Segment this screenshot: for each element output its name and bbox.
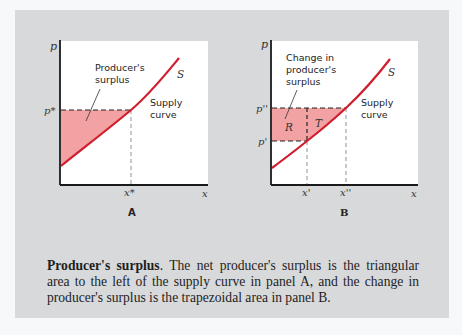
panel-b-quantity-tick-low: x' xyxy=(302,187,310,198)
panel-a-curve-label: S xyxy=(177,68,184,80)
panel-b-surplus-label-line3: surplus xyxy=(286,76,321,87)
panel-b-label: B xyxy=(340,207,348,218)
panel-a-surplus-label-line1: Producer's xyxy=(95,62,145,73)
caption-title: Producer's surplus xyxy=(47,258,160,273)
panel-b-y-axis-label: p xyxy=(261,38,268,51)
panel-a-quantity-tick: x* xyxy=(124,187,135,198)
panel-b-supply-label-line2: curve xyxy=(361,109,388,120)
panel-b-quantity-tick-high: x'' xyxy=(340,187,351,198)
panel-b-surplus-label-line1: Change in xyxy=(286,52,334,63)
panel-a-x-axis-label: x xyxy=(202,188,208,199)
panel-b-x-axis-label: x xyxy=(411,188,417,199)
panel-b-curve-label: S xyxy=(388,66,395,78)
panel-b-region-r-label: R xyxy=(284,121,293,133)
panel-b-price-tick-high: p'' xyxy=(256,103,268,114)
figure-caption: Producer's surplus. The net producer's s… xyxy=(47,258,419,306)
panel-a-supply-label-line2: curve xyxy=(150,109,177,120)
panel-a-surplus-label-line2: surplus xyxy=(95,74,130,85)
panel-a: p x p* x* S Supply curve Producer's surp… xyxy=(44,40,208,218)
panel-b-region-t-label: T xyxy=(315,117,323,129)
panel-a-supply-label-line1: Supply xyxy=(150,97,183,108)
panel-a-y-axis-label: p xyxy=(50,40,57,53)
panel-b-surplus-label-line2: producer's xyxy=(286,64,336,75)
panel-b: p x p'' p' x' x'' S R T Supply curve Cha… xyxy=(256,38,418,218)
panel-b-supply-label-line1: Supply xyxy=(361,97,394,108)
panel-b-price-tick-low: p' xyxy=(258,136,267,147)
panel-a-label: A xyxy=(128,207,136,218)
panel-a-price-tick: p* xyxy=(44,105,55,116)
